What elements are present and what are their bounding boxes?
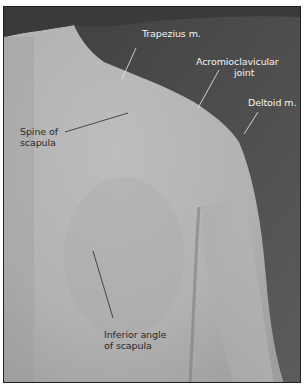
label-inferior-angle-line1: Inferior angle <box>104 329 166 340</box>
label-inferior-angle-line2: of scapula <box>104 340 166 351</box>
label-trapezius: Trapezius m. <box>142 28 201 39</box>
anatomy-figure: Trapezius m. Acromioclavicular joint Del… <box>0 0 304 386</box>
shoulder-photograph: Trapezius m. Acromioclavicular joint Del… <box>3 6 301 383</box>
label-acromioclavicular: Acromioclavicular joint <box>196 56 279 78</box>
label-deltoid: Deltoid m. <box>248 97 296 108</box>
label-spine-of-scapula-line1: Spine of <box>20 126 58 137</box>
label-acromioclavicular-line1: Acromioclavicular <box>196 56 279 67</box>
label-acromioclavicular-line2: joint <box>196 67 279 78</box>
label-spine-of-scapula: Spine of scapula <box>20 126 58 148</box>
label-spine-of-scapula-line2: scapula <box>20 137 58 148</box>
label-inferior-angle: Inferior angle of scapula <box>104 329 166 351</box>
